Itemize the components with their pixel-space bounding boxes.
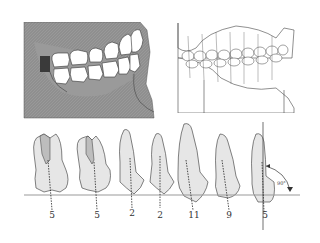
tooth-label: 2 — [153, 210, 167, 220]
skull-illustration — [22, 22, 157, 120]
angle-label: 90° — [277, 180, 286, 186]
dental-cast-illustration — [176, 18, 296, 113]
teeth-angulation-diagram: 5 5 2 2 11 9 5 90° — [0, 120, 320, 243]
tooth-label: 5 — [258, 210, 272, 220]
tooth-label: 9 — [222, 210, 236, 220]
tooth-label: 11 — [187, 210, 201, 220]
tooth-label: 5 — [45, 210, 59, 220]
tooth-label: 5 — [90, 210, 104, 220]
tooth-label: 2 — [125, 208, 139, 218]
